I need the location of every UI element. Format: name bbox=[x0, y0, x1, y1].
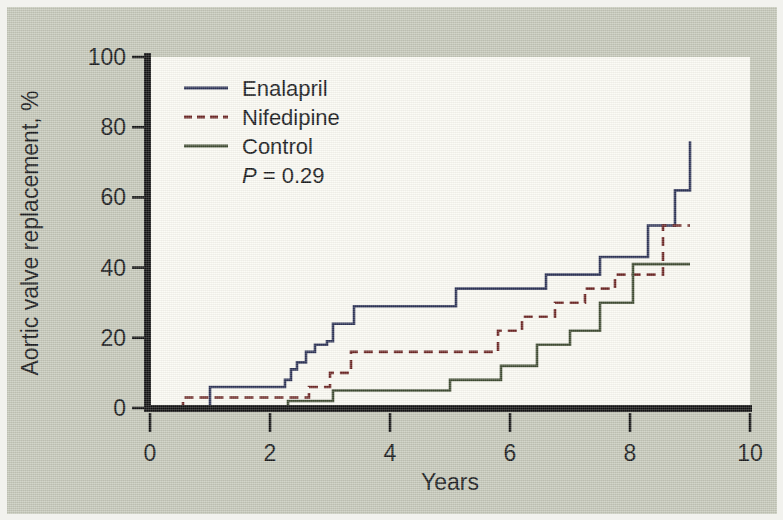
figure-container: 020406080100 0246810 Years Aortic valve … bbox=[0, 0, 783, 520]
y-tick-label: 60 bbox=[100, 184, 126, 210]
x-axis-title: Years bbox=[421, 469, 479, 495]
y-tick-label: 80 bbox=[100, 114, 126, 140]
legend-label-control: Control bbox=[242, 134, 313, 159]
x-tick-label: 2 bbox=[264, 440, 277, 466]
plot-panel bbox=[150, 57, 750, 408]
y-axis-spine bbox=[144, 53, 151, 412]
figure-edge-bottom bbox=[0, 514, 783, 520]
y-tick-label: 40 bbox=[100, 255, 126, 281]
x-tick-label: 0 bbox=[144, 440, 157, 466]
figure-edge-top bbox=[0, 0, 783, 7]
p-value-annotation: P = 0.29 bbox=[242, 163, 325, 188]
x-tick-label: 10 bbox=[737, 440, 763, 466]
y-tick-label: 100 bbox=[88, 44, 126, 70]
x-tick-label: 6 bbox=[504, 440, 517, 466]
y-axis-title: Aortic valve replacement, % bbox=[17, 90, 43, 375]
y-tick-label: 0 bbox=[113, 395, 126, 421]
figure-edge-left bbox=[0, 0, 7, 520]
x-axis-spine bbox=[144, 405, 752, 412]
x-axis-ticks-group: 0246810 bbox=[144, 413, 763, 466]
x-tick-label: 8 bbox=[624, 440, 637, 466]
y-tick-label: 20 bbox=[100, 325, 126, 351]
legend-label-nifedipine: Nifedipine bbox=[242, 105, 340, 130]
x-tick-label: 4 bbox=[384, 440, 397, 466]
kaplan-meier-chart: 020406080100 0246810 Years Aortic valve … bbox=[0, 0, 783, 520]
y-axis-ticks-group: 020406080100 bbox=[88, 44, 147, 421]
legend-label-enalapril: Enalapril bbox=[242, 76, 328, 101]
figure-edge-right bbox=[777, 0, 783, 520]
